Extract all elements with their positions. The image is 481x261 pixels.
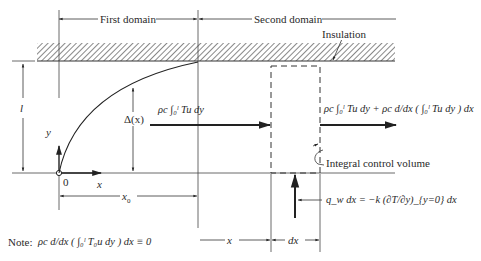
wall-flux-equation: q_w dx = −k (∂T/∂y)_{y=0} dx <box>326 194 457 206</box>
second-domain-label: Second domain <box>254 13 322 25</box>
thickness-label: l <box>20 102 23 114</box>
insulation-band <box>37 43 395 61</box>
origin-label: 0 <box>63 176 69 188</box>
x0-label: x0 <box>122 190 130 207</box>
outflow-equation: ρc ∫₀ˡ Tu dy + ρc d/dx ( ∫₀ˡ Tu dy ) dx <box>324 103 474 115</box>
note-label: Note: <box>8 236 32 248</box>
x-dimension-label: x <box>227 234 232 246</box>
diagram-canvas <box>0 0 481 261</box>
y-axis-label: y <box>46 126 51 138</box>
delta-label: Δ(x) <box>124 113 144 125</box>
insulation-label: Insulation <box>322 28 366 40</box>
integral-control-volume <box>271 66 320 173</box>
x-axis-label: x <box>97 178 102 190</box>
inflow-equation: ρc ∫₀ˡ Tu dy <box>158 104 204 116</box>
first-domain-label: First domain <box>100 13 156 25</box>
dx-dimension-label: dx <box>288 234 298 246</box>
note-equation: ρc d/dx ( ∫₀ˡ T₀u dy ) dx ≡ 0 <box>38 236 151 248</box>
control-volume-label: Integral control volume <box>326 157 430 169</box>
